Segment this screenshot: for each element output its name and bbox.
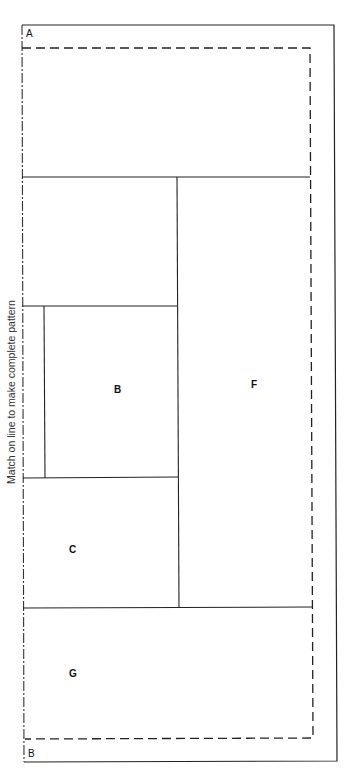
match-line [22, 25, 24, 762]
divider-cf [177, 177, 179, 608]
piece-label-c: C [69, 544, 76, 555]
corner-label-top: A [26, 28, 33, 39]
piece-label-b: B [114, 384, 121, 395]
divider-b-bottom [23, 477, 178, 478]
divider-g-top [23, 607, 312, 608]
corner-label-bottom: B [28, 748, 35, 759]
divider-b-left [44, 306, 45, 478]
seam-line [22, 48, 313, 739]
piece-label-f: F [251, 379, 257, 390]
match-line-note: Match on line to make complete pattern [5, 300, 17, 484]
pattern-diagram: A B B C F G Match on line to make comple… [0, 0, 348, 781]
piece-label-g: G [69, 668, 77, 679]
outer-cut-line [22, 25, 337, 762]
